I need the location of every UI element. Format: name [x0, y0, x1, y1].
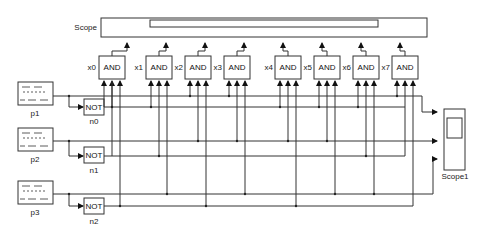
and-output-wires	[112, 43, 405, 56]
signal-wires	[53, 81, 437, 206]
svg-text:x6: x6	[343, 63, 352, 72]
pulse-generator-p2[interactable]: p2	[18, 128, 53, 164]
and-gate-x0[interactable]: AND x0	[88, 56, 125, 79]
pulse-generator-p1[interactable]: p1	[18, 82, 53, 118]
scope1-screen	[447, 118, 462, 138]
scope-display-bar	[150, 20, 378, 27]
svg-text:x5: x5	[304, 63, 313, 72]
and-gate-x7[interactable]: AND x7	[382, 56, 418, 79]
and-gate-x6[interactable]: AND x6	[343, 56, 379, 79]
svg-text:AND: AND	[397, 63, 414, 72]
svg-text:AND: AND	[151, 63, 168, 72]
svg-text:AND: AND	[358, 63, 375, 72]
svg-text:p1: p1	[31, 109, 40, 118]
and-gate-x1[interactable]: AND x1	[135, 56, 172, 79]
svg-text:x3: x3	[214, 63, 223, 72]
svg-text:NOT: NOT	[86, 151, 103, 160]
block-diagram-canvas: Scope AND x0 AND x1 AND x2 AND x3 AND x4…	[0, 0, 481, 236]
svg-text:p2: p2	[31, 155, 40, 164]
scope-block[interactable]: Scope	[74, 18, 427, 37]
svg-text:x1: x1	[135, 63, 144, 72]
svg-text:AND: AND	[229, 63, 246, 72]
and-gate-x5[interactable]: AND x5	[304, 56, 340, 79]
svg-text:NOT: NOT	[86, 202, 103, 211]
svg-text:AND: AND	[319, 63, 336, 72]
scope1-block[interactable]: Scope1	[441, 109, 469, 181]
and-gate-x2[interactable]: AND x2	[175, 56, 211, 79]
and-gate-x3[interactable]: AND x3	[214, 56, 250, 79]
not-gate-n1[interactable]: NOT n1	[84, 147, 104, 175]
svg-text:n0: n0	[90, 117, 99, 126]
and-gate-x4[interactable]: AND x4	[265, 56, 301, 79]
svg-text:AND: AND	[280, 63, 297, 72]
not-gate-n0[interactable]: NOT n0	[84, 99, 104, 126]
svg-text:x2: x2	[175, 63, 184, 72]
svg-text:x7: x7	[382, 63, 391, 72]
scope-label: Scope	[74, 23, 97, 32]
svg-text:NOT: NOT	[86, 103, 103, 112]
svg-text:AND: AND	[104, 63, 121, 72]
svg-text:x4: x4	[265, 63, 274, 72]
svg-text:p3: p3	[31, 208, 40, 217]
wire-junctions	[68, 95, 398, 207]
svg-text:Scope1: Scope1	[441, 172, 469, 181]
pulse-generator-p3[interactable]: p3	[18, 181, 53, 217]
svg-text:x0: x0	[88, 63, 97, 72]
svg-text:AND: AND	[190, 63, 207, 72]
svg-text:n1: n1	[90, 166, 99, 175]
svg-text:n2: n2	[90, 217, 99, 226]
not-gate-n2[interactable]: NOT n2	[84, 198, 104, 226]
